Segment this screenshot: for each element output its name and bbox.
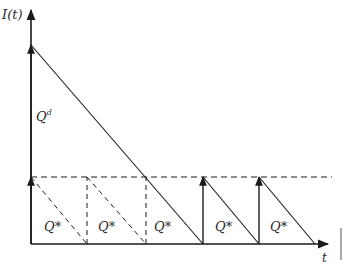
x-axis-label: t: [322, 251, 327, 265]
dashed-depletion-2: [87, 177, 146, 244]
cycle-label-5: Q*: [270, 219, 288, 234]
cycle-label-2: Q*: [98, 219, 116, 234]
cycle-label-3: Q*: [154, 219, 172, 234]
initial-order-sup: d: [47, 108, 52, 117]
initial-depletion-line: [31, 45, 203, 244]
inventory-level-diagram: I(t) t Qd Q* Q* Q* Q* Q*: [0, 0, 344, 268]
initial-order-label: Qd: [36, 108, 52, 124]
cycle-label-1: Q*: [44, 219, 62, 234]
initial-order-q: Q: [36, 109, 47, 124]
y-axis-label: I(t): [1, 7, 23, 22]
cycle-label-4: Q*: [215, 219, 233, 234]
